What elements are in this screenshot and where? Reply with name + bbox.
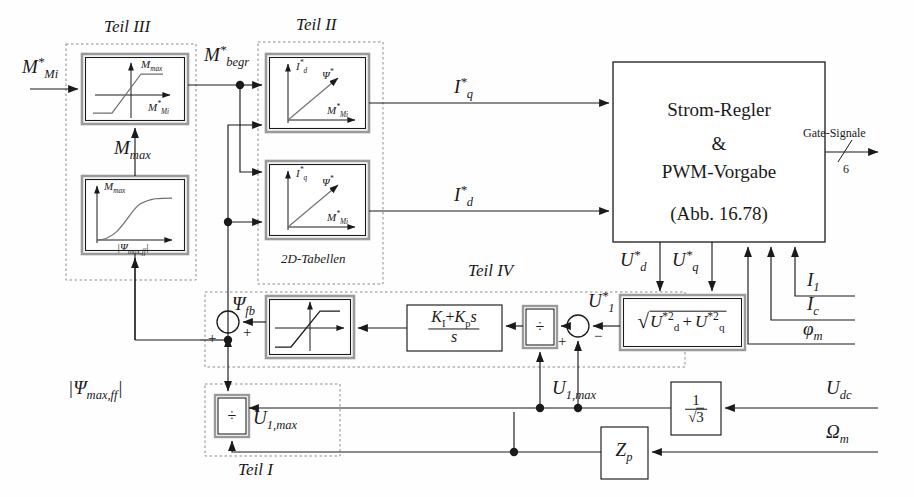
node-u1max-divider xyxy=(536,404,544,412)
wire-zp-out xyxy=(232,441,601,452)
label-ud-ref: U*d xyxy=(620,249,646,274)
label-gate-count: 6 xyxy=(843,163,849,175)
sign-plus-flux-sum-bottom: + xyxy=(208,331,216,346)
label-mmax: Mmax xyxy=(114,138,151,161)
sign-plus-flux-sum-right: + xyxy=(243,325,251,340)
label-mmax-curve-y-axis: Mmax xyxy=(104,181,125,195)
label-controller-line3: PWM-Vorgabe xyxy=(662,162,776,181)
group-label-teil3: Teil III xyxy=(104,18,150,35)
label-u1-ref: U*1 xyxy=(588,290,614,315)
label-mmi-ref: M*Mi xyxy=(22,56,58,81)
label-tables-caption: 2D-Tabellen xyxy=(281,252,346,265)
block-torque-limiter xyxy=(82,54,188,124)
label-divide-symbol-teil4: ÷ xyxy=(536,319,545,335)
label-table-lower-curve: Ψ* xyxy=(322,175,333,188)
label-u1max-teil1: U1,max xyxy=(253,408,297,431)
node-m-begr xyxy=(236,81,244,89)
wire-mbegr-to-table-lower xyxy=(240,89,262,172)
wire-psi-to-table-upper-2 xyxy=(228,125,262,222)
label-pole-pairs: Zp xyxy=(616,440,633,463)
label-udc: Udc xyxy=(826,378,852,401)
label-controller-line4: (Abb. 16.78) xyxy=(670,204,768,223)
label-inv-sqrt3: 1 √3 xyxy=(685,393,707,426)
label-table-lower-y-axis: I*q xyxy=(296,166,307,182)
label-ic: Ic xyxy=(807,294,819,317)
block-flux-limiter xyxy=(266,296,354,358)
label-psi-max-ff: |Ψmax,ff| xyxy=(68,378,123,401)
label-psi-feedback: Ψfb xyxy=(232,294,255,317)
label-uq-ref: U*q xyxy=(672,249,698,274)
sign-minus-voltage-sum: − xyxy=(594,329,602,344)
label-controller-line2: & xyxy=(712,134,727,153)
label-limiter-y-axis: Mmax xyxy=(141,59,162,73)
group-label-teil1: Teil I xyxy=(238,461,273,478)
diagram-canvas: Teil III Teil II Teil IV Teil I M*Mi M*b… xyxy=(0,0,914,497)
block-2d-table-upper xyxy=(266,54,369,132)
label-u1max-rail: U1,max xyxy=(552,378,596,401)
label-iq-ref: I*q xyxy=(454,76,473,101)
block-2d-table-lower xyxy=(266,161,369,239)
label-id-ref: I*d xyxy=(454,184,473,209)
group-label-teil2: Teil II xyxy=(296,16,336,33)
label-sqrt-expression: √U*2d+U*2q xyxy=(638,311,727,334)
sign-plus-voltage-sum: + xyxy=(558,334,566,349)
label-table-upper-curve: Ψ* xyxy=(322,68,333,81)
sum-junction-voltage xyxy=(567,315,589,337)
group-label-teil4: Teil IV xyxy=(468,262,513,279)
label-mbegr-ref: M*begr xyxy=(204,44,249,69)
label-table-lower-x-axis: M*Mi xyxy=(327,210,348,226)
label-gate-signals: Gate-Signale xyxy=(803,127,866,139)
label-table-upper-y-axis: I*d xyxy=(296,59,307,75)
label-phim: φm xyxy=(803,319,823,342)
wire-i1-feedback xyxy=(795,247,855,296)
label-mmax-curve-x-axis: |Ψmax,ff| xyxy=(117,242,149,256)
bus-slash-gate xyxy=(838,140,852,162)
label-controller-line1: Strom-Regler xyxy=(667,100,770,119)
label-i1: I1 xyxy=(807,270,820,293)
label-divide-symbol-teil1: ÷ xyxy=(228,408,237,424)
label-omega-m: Ωm xyxy=(826,422,849,445)
label-limiter-x-axis: M*Mi xyxy=(148,100,169,116)
label-table-upper-x-axis: M*Mi xyxy=(327,103,348,119)
label-pi-transfer-function: KI+Kps s xyxy=(428,309,479,346)
